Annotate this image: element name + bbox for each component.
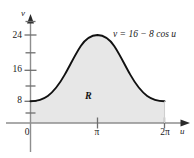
region-label-R: R	[85, 91, 92, 101]
y-axis-label: v	[21, 9, 25, 18]
curve-equation-label: v = 16 − 8 cos u	[113, 30, 176, 40]
y-tick-label-16: 16	[6, 65, 22, 75]
shaded-region-R	[31, 35, 165, 123]
y-tick-label-24: 24	[6, 31, 22, 41]
x-axis-label: u	[180, 127, 185, 136]
y-tick-label-8: 8	[6, 96, 22, 106]
figure-container: v u 24 16 8 0 π 2π R v = 16 − 8 cos u	[0, 0, 194, 158]
x-tick-label-pi: π	[89, 128, 105, 138]
x-tick-label-2pi: 2π	[155, 128, 175, 138]
x-tick-label-0: 0	[20, 128, 34, 138]
